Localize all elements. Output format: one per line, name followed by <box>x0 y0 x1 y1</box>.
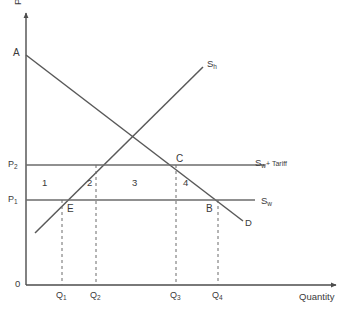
x-axis-title: Quantity <box>299 292 334 302</box>
y-axis-title: Price <box>13 0 23 5</box>
point-label-a: A <box>13 48 20 58</box>
tariff-diagram: Price Quantity 0 P1 P2 Q1 Q2 Q3 Q4 A B C… <box>0 0 349 312</box>
curve-label-supply-home: Sh <box>207 59 217 69</box>
quantity-tick-q1-base: Q <box>56 290 63 300</box>
price-tick-p2-sub: 2 <box>14 163 18 170</box>
quantity-tick-q4-sub: 4 <box>219 294 223 301</box>
quantity-tick-q2-base: Q <box>90 290 97 300</box>
price-tick-p1-sub: 1 <box>14 198 18 205</box>
supply-home-curve <box>35 67 203 233</box>
quantity-tick-q4: Q4 <box>212 291 223 300</box>
quantity-tick-q3-sub: 3 <box>177 294 181 301</box>
quantity-tick-q3-base: Q <box>170 290 177 300</box>
quantity-tick-q3: Q3 <box>170 291 181 300</box>
point-label-e: E <box>67 204 74 214</box>
region-label-4: 4 <box>183 178 188 188</box>
region-label-3: 3 <box>132 178 137 188</box>
diagram-canvas <box>0 0 349 312</box>
region-label-2: 2 <box>87 178 92 188</box>
curve-label-world-supply-sub: w <box>267 200 272 207</box>
curve-label-world-supply-tariff: Sw+ Tariff <box>255 158 287 168</box>
curve-label-demand: D <box>245 218 252 228</box>
curve-label-world-supply: Sw <box>261 196 272 206</box>
quantity-tick-q2-sub: 2 <box>97 294 101 301</box>
curve-label-supply-home-sub: h <box>213 63 217 70</box>
point-label-b: B <box>206 204 213 214</box>
region-label-1: 1 <box>42 178 47 188</box>
quantity-tick-q1-sub: 1 <box>63 294 67 301</box>
point-label-c: C <box>176 154 183 164</box>
curve-label-world-supply-tariff-sub: w <box>261 162 266 169</box>
demand-curve <box>26 55 243 221</box>
quantity-tick-q1: Q1 <box>56 291 67 300</box>
quantity-tick-q2: Q2 <box>90 291 101 300</box>
origin-label: 0 <box>15 279 20 289</box>
curve-label-world-supply-tariff-suffix: + Tariff <box>266 160 287 167</box>
price-tick-p1: P1 <box>8 195 18 204</box>
quantity-tick-q4-base: Q <box>212 290 219 300</box>
price-tick-p2: P2 <box>8 160 18 169</box>
